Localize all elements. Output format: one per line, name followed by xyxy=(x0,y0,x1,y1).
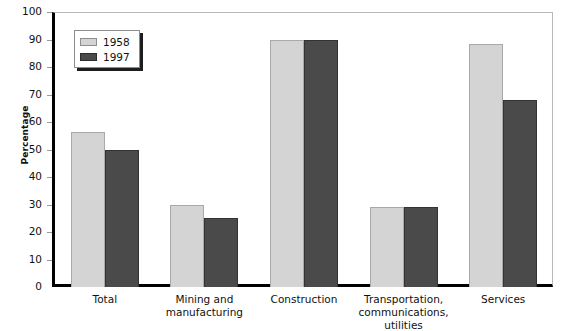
bar-group xyxy=(370,12,438,287)
x-tick-label-line: communications, xyxy=(344,306,464,319)
x-tick-label-line: utilities xyxy=(344,319,464,331)
legend-item-1958[interactable]: 1958 xyxy=(80,35,134,49)
bar-1997-4[interactable] xyxy=(503,100,537,287)
bar-group xyxy=(170,12,238,287)
y-tick-label-40: 40 xyxy=(0,171,42,182)
bar-1997-3[interactable] xyxy=(404,207,438,287)
y-tick-label-10: 10 xyxy=(0,254,42,265)
legend-label-1997: 1997 xyxy=(103,52,130,63)
legend-label-1958: 1958 xyxy=(103,37,130,48)
legend-item-1997[interactable]: 1997 xyxy=(80,50,134,64)
y-tick-label-60: 60 xyxy=(0,116,42,127)
legend[interactable]: 1958 1997 xyxy=(74,30,140,68)
y-tick-label-80: 80 xyxy=(0,61,42,72)
y-tick-label-90: 90 xyxy=(0,34,42,45)
bar-group xyxy=(469,12,537,287)
y-tick-label-50: 50 xyxy=(0,144,42,155)
bar-1997-2[interactable] xyxy=(304,40,338,288)
bar-1958-3[interactable] xyxy=(370,207,404,287)
bar-group xyxy=(270,12,338,287)
bar-1997-0[interactable] xyxy=(105,150,139,288)
y-tick-label-30: 30 xyxy=(0,199,42,210)
bar-1958-2[interactable] xyxy=(270,40,304,288)
legend-swatch-1997 xyxy=(80,53,97,61)
y-axis-title: Percentage xyxy=(20,90,30,180)
x-tick-label-line: manufacturing xyxy=(145,306,265,319)
bar-1958-1[interactable] xyxy=(170,205,204,288)
legend-swatch-1958 xyxy=(80,38,97,46)
bar-1997-1[interactable] xyxy=(204,218,238,287)
y-tick-label-0: 0 xyxy=(0,281,42,292)
bar-chart: Percentage 0102030405060708090100 TotalM… xyxy=(0,0,566,331)
x-tick-label-4: Services xyxy=(443,293,563,306)
y-tick-label-20: 20 xyxy=(0,226,42,237)
bar-1958-4[interactable] xyxy=(469,44,503,287)
x-tick-label-line: Services xyxy=(443,293,563,306)
bar-1958-0[interactable] xyxy=(71,132,105,287)
y-tick-label-100: 100 xyxy=(0,6,42,17)
y-tick-label-70: 70 xyxy=(0,89,42,100)
